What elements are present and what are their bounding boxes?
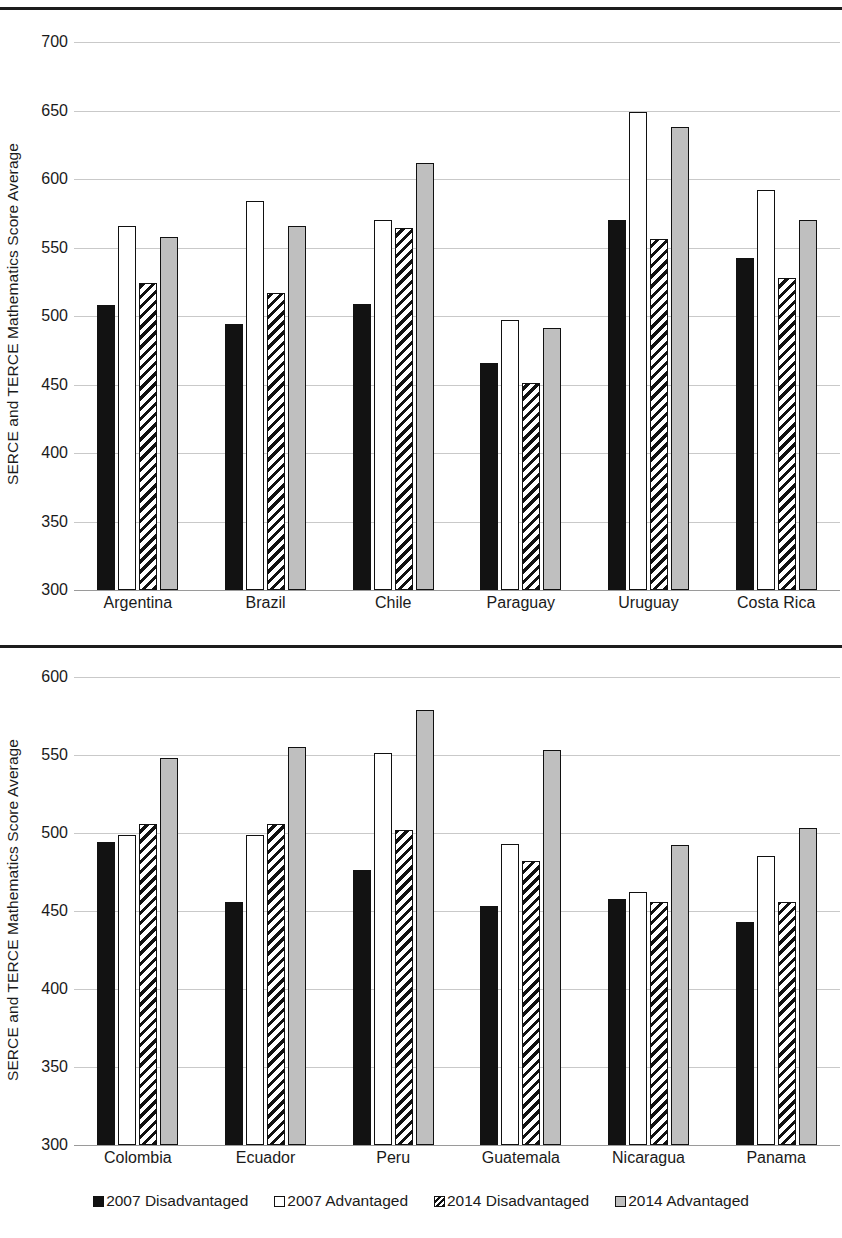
- x-axis-label: Colombia: [74, 1149, 202, 1167]
- top-divider-rule: [0, 7, 842, 10]
- legend-item: 2007 Disadvantaged: [93, 1192, 248, 1210]
- bar: [416, 710, 434, 1145]
- y-tick-label: 350: [41, 1059, 68, 1075]
- bar: [480, 363, 498, 590]
- chart-legend: 2007 Disadvantaged2007 Advantaged2014 Di…: [0, 1192, 842, 1210]
- x-axis-labels-top: ArgentinaBrazilChileParaguayUruguayCosta…: [74, 594, 840, 612]
- x-axis-label: Panama: [712, 1149, 840, 1167]
- x-axis-label: Nicaragua: [585, 1149, 713, 1167]
- diagonal-hatch-swatch-icon: [434, 1196, 445, 1207]
- legend-label: 2014 Disadvantaged: [447, 1192, 589, 1210]
- bar-group: [74, 42, 202, 590]
- bar: [757, 190, 775, 590]
- bar-group: [202, 677, 330, 1145]
- bar: [246, 835, 264, 1145]
- middle-divider-rule: [0, 645, 842, 648]
- bar-group: [74, 677, 202, 1145]
- y-tick-label: 450: [41, 903, 68, 919]
- legend-label: 2014 Advantaged: [628, 1192, 749, 1210]
- bar-group: [457, 677, 585, 1145]
- bar: [650, 902, 668, 1145]
- solid-black-swatch-icon: [93, 1196, 104, 1207]
- plot-area-bottom: [74, 677, 840, 1145]
- plot-area-wrapper-bottom: 300350400450500550600 ColombiaEcuadorPer…: [26, 663, 840, 1163]
- gridline: [74, 1145, 840, 1146]
- y-tick-label: 550: [41, 240, 68, 256]
- y-tick-label: 400: [41, 981, 68, 997]
- bar: [225, 324, 243, 590]
- bar: [118, 835, 136, 1145]
- x-axis-label: Uruguay: [585, 594, 713, 612]
- bar: [501, 320, 519, 590]
- y-tick-label: 700: [41, 34, 68, 50]
- y-tick-label: 550: [41, 747, 68, 763]
- bar: [757, 856, 775, 1145]
- bar: [246, 201, 264, 590]
- legend-label: 2007 Advantaged: [287, 1192, 408, 1210]
- y-tick-label: 300: [41, 1137, 68, 1153]
- bar-group: [329, 677, 457, 1145]
- bar: [629, 892, 647, 1145]
- bar: [778, 902, 796, 1145]
- bar: [160, 758, 178, 1145]
- bar: [353, 304, 371, 590]
- bar-group: [712, 677, 840, 1145]
- bar-group: [202, 42, 330, 590]
- bar-group: [457, 42, 585, 590]
- bar: [671, 127, 689, 590]
- y-axis-ticks-top: 300350400450500550600650700: [26, 28, 74, 608]
- y-axis-title-top: SERCE and TERCE Mathematics Score Averag…: [0, 54, 26, 574]
- bar: [736, 922, 754, 1145]
- y-tick-label: 650: [41, 103, 68, 119]
- bar: [395, 228, 413, 590]
- y-tick-label: 500: [41, 308, 68, 324]
- bar: [736, 258, 754, 590]
- plot-area-top: [74, 42, 840, 590]
- bar-group: [585, 677, 713, 1145]
- y-axis-ticks-bottom: 300350400450500550600: [26, 663, 74, 1163]
- bar: [416, 163, 434, 590]
- x-axis-label: Argentina: [74, 594, 202, 612]
- bar: [160, 237, 178, 590]
- y-tick-label: 450: [41, 377, 68, 393]
- y-tick-label: 600: [41, 171, 68, 187]
- x-axis-label: Peru: [329, 1149, 457, 1167]
- bar: [225, 902, 243, 1145]
- legend-item: 2007 Advantaged: [274, 1192, 408, 1210]
- x-axis-label: Guatemala: [457, 1149, 585, 1167]
- bar: [353, 870, 371, 1145]
- bar: [139, 824, 157, 1145]
- x-axis-labels-bottom: ColombiaEcuadorPeruGuatemalaNicaraguaPan…: [74, 1149, 840, 1167]
- bar: [778, 278, 796, 590]
- bar: [139, 283, 157, 590]
- bar: [480, 906, 498, 1145]
- bar: [374, 220, 392, 590]
- solid-gray-swatch-icon: [615, 1196, 626, 1207]
- bar: [799, 828, 817, 1145]
- y-tick-label: 400: [41, 445, 68, 461]
- bar: [97, 305, 115, 590]
- bar: [522, 861, 540, 1145]
- bar: [799, 220, 817, 590]
- bar-group: [712, 42, 840, 590]
- x-axis-label: Ecuador: [202, 1149, 330, 1167]
- bar: [395, 830, 413, 1145]
- bar: [650, 239, 668, 590]
- bar: [267, 293, 285, 590]
- gridline: [74, 590, 840, 591]
- bar: [608, 899, 626, 1145]
- bar: [629, 112, 647, 590]
- bar: [522, 383, 540, 590]
- bar-groups-top: [74, 42, 840, 590]
- legend-label: 2007 Disadvantaged: [106, 1192, 248, 1210]
- bar: [288, 226, 306, 590]
- y-tick-label: 350: [41, 514, 68, 530]
- bar: [288, 747, 306, 1145]
- figure-page: SERCE and TERCE Mathematics Score Averag…: [0, 0, 842, 1238]
- legend-item: 2014 Advantaged: [615, 1192, 749, 1210]
- bar: [501, 844, 519, 1145]
- bar: [543, 750, 561, 1145]
- bar: [671, 845, 689, 1145]
- y-tick-label: 300: [41, 582, 68, 598]
- bar: [97, 842, 115, 1145]
